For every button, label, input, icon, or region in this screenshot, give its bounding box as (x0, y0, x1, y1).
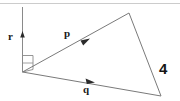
figure-canvas: r p q 4 (0, 0, 180, 101)
vector-triangle-svg (0, 0, 180, 101)
triangle-side-right (129, 13, 161, 96)
triangle-side-q (23, 72, 162, 96)
vector-label-p: p (64, 28, 70, 39)
r-arrowhead-icon (20, 31, 25, 38)
triangle-side-p (23, 13, 130, 72)
vector-label-q: q (83, 84, 89, 95)
vector-label-r: r (8, 31, 13, 42)
side-length-label: 4 (159, 61, 167, 76)
